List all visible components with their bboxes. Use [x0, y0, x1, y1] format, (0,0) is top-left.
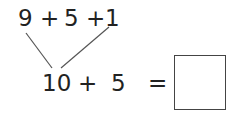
equals-sign: =: [148, 72, 167, 95]
bottom-plus: +: [78, 72, 97, 95]
right-connector-line: [61, 27, 109, 68]
bottom-term-5: 5: [111, 72, 126, 95]
answer-box[interactable]: [174, 55, 226, 110]
left-connector-line: [26, 33, 52, 68]
bottom-term-10: 10: [42, 72, 71, 95]
